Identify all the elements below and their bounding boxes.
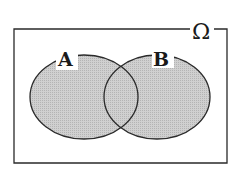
venn-diagram: A B Ω <box>0 0 238 169</box>
set-b-label: B <box>153 48 169 70</box>
set-a-label: A <box>57 48 73 70</box>
universe-label: Ω <box>192 19 210 44</box>
